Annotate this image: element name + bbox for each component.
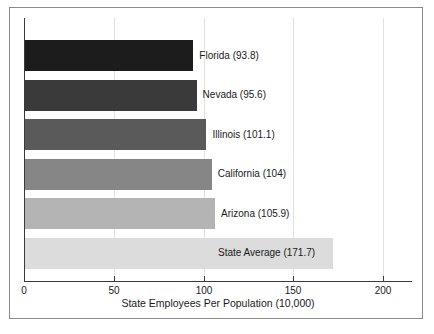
tick-mark-150 xyxy=(293,276,294,282)
x-axis-title: State Employees Per Population (10,000) xyxy=(24,297,412,309)
tick-mark-100 xyxy=(204,276,205,282)
bar-label-california: California (104) xyxy=(218,168,286,179)
bar-label-illinois: Illinois (101.1) xyxy=(212,129,274,140)
bar-illinois[interactable] xyxy=(25,119,206,150)
bar-group xyxy=(25,159,212,190)
bar-label-state-average: State Average (171.7) xyxy=(218,247,315,258)
bar-california[interactable] xyxy=(25,159,212,190)
bar-label-arizona: Arizona (105.9) xyxy=(221,208,289,219)
bar-group xyxy=(25,80,197,111)
bar-arizona[interactable] xyxy=(25,198,215,229)
x-tick-label-150: 150 xyxy=(285,285,302,296)
bar-florida[interactable] xyxy=(25,40,193,71)
bar-nevada[interactable] xyxy=(25,80,197,111)
bar-label-florida: Florida (93.8) xyxy=(199,50,258,61)
bar-label-nevada: Nevada (95.6) xyxy=(203,89,266,100)
bar-group xyxy=(25,40,193,71)
x-tick-label-100: 100 xyxy=(196,285,213,296)
x-tick-label-0: 0 xyxy=(21,285,27,296)
tick-mark-50 xyxy=(114,276,115,282)
bar-group xyxy=(25,198,215,229)
bar-group xyxy=(25,119,206,150)
tick-mark-0 xyxy=(24,276,25,282)
chart-figure: Florida (93.8)Nevada (95.6)Illinois (101… xyxy=(0,0,434,334)
tick-mark-200 xyxy=(383,276,384,282)
x-tick-label-200: 200 xyxy=(375,285,392,296)
y-axis-line xyxy=(24,18,25,282)
bars-layer: Florida (93.8)Nevada (95.6)Illinois (101… xyxy=(0,0,434,334)
x-tick-label-50: 50 xyxy=(108,285,119,296)
x-axis-line xyxy=(24,281,412,282)
